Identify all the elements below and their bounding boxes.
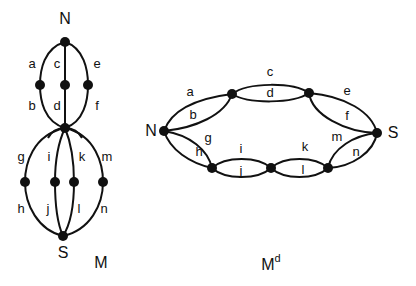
edge-label-b: b xyxy=(28,98,35,113)
edge-n xyxy=(63,182,103,236)
edge-label-e: e xyxy=(93,56,100,71)
edge-label-n: n xyxy=(352,144,359,159)
edge-label-d: d xyxy=(266,85,273,100)
edge-label-j: j xyxy=(239,163,243,178)
edge-label-e: e xyxy=(343,83,350,98)
edge-label-f: f xyxy=(95,98,99,113)
edge-label-l: l xyxy=(78,201,81,216)
node-cd xyxy=(60,80,70,90)
terminal-s-label: S xyxy=(388,124,399,141)
edge-label-c: c xyxy=(54,56,61,71)
edge-f xyxy=(309,93,377,133)
diagram-canvas: N a b c d e f g h i j k l m n S M xyxy=(0,0,416,286)
edge-label-l: l xyxy=(302,162,305,177)
node-n xyxy=(60,37,70,47)
edge-label-k: k xyxy=(302,139,309,154)
edge-a xyxy=(164,94,232,131)
graph-md-caption: Md xyxy=(261,252,280,273)
edge-label-a: a xyxy=(186,84,194,99)
node-cdef xyxy=(304,88,314,98)
edge-k xyxy=(271,159,328,168)
edge-b xyxy=(164,94,232,131)
caption-superscript: d xyxy=(275,252,281,264)
terminal-s-label: S xyxy=(58,244,69,261)
node-klmn xyxy=(323,163,333,173)
node-junction xyxy=(60,123,70,133)
edge-label-j: j xyxy=(46,201,50,216)
edge-j xyxy=(55,182,63,236)
terminal-n-label: N xyxy=(145,122,157,139)
edge-g xyxy=(25,128,65,182)
edge-i xyxy=(55,128,65,182)
edge-label-g: g xyxy=(204,130,211,145)
graph-m-caption: M xyxy=(94,254,107,271)
node-ghij xyxy=(207,163,217,173)
node-ijkl xyxy=(266,163,276,173)
node-ef xyxy=(83,80,93,90)
edge-label-n: n xyxy=(100,201,107,216)
caption-base: M xyxy=(261,256,274,273)
node-s xyxy=(372,128,382,138)
terminal-n-label: N xyxy=(59,10,71,27)
node-abcd xyxy=(227,89,237,99)
edge-label-a: a xyxy=(28,56,36,71)
graph-md: N S a b c d e f g h i j k l m n Md xyxy=(145,64,398,273)
edge-label-i: i xyxy=(48,149,51,164)
edge-l xyxy=(63,182,74,236)
edge-e xyxy=(65,42,88,85)
node-mn xyxy=(98,177,108,187)
node-kl xyxy=(69,177,79,187)
edge-label-k: k xyxy=(79,149,86,164)
edge-label-m: m xyxy=(102,149,113,164)
edge-label-d: d xyxy=(53,98,60,113)
edge-label-h: h xyxy=(195,144,202,159)
edge-label-i: i xyxy=(240,141,243,156)
edge-label-b: b xyxy=(189,107,196,122)
edge-k xyxy=(65,128,74,182)
edge-a xyxy=(40,42,65,85)
edge-label-m: m xyxy=(332,129,343,144)
graph-m: N a b c d e f g h i j k l m n S M xyxy=(17,10,112,271)
edge-label-f: f xyxy=(345,108,349,123)
edge-label-h: h xyxy=(17,201,24,216)
edge-f xyxy=(65,85,88,128)
node-ab xyxy=(35,80,45,90)
node-n xyxy=(159,126,169,136)
node-ij xyxy=(50,177,60,187)
edge-l xyxy=(271,168,328,177)
edge-label-g: g xyxy=(17,149,24,164)
node-gh xyxy=(20,177,30,187)
node-s xyxy=(58,231,68,241)
edge-label-c: c xyxy=(267,64,274,79)
